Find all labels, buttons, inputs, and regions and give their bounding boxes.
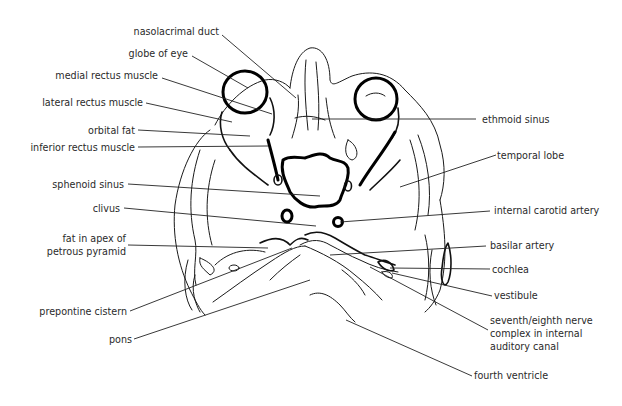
right-labels: ethmoid sinus temporal lobe internal car… — [474, 114, 600, 381]
label-nasolacrimal-duct: nasolacrimal duct — [134, 26, 220, 37]
label-fourth-ventricle: fourth ventricle — [474, 370, 548, 381]
label-clivus: clivus — [93, 203, 120, 214]
label-sphenoid-sinus: sphenoid sinus — [52, 179, 124, 190]
label-inferior-rectus-muscle: inferior rectus muscle — [30, 142, 135, 153]
label-vestibule: vestibule — [494, 290, 538, 301]
label-ethmoid-sinus: ethmoid sinus — [482, 114, 550, 125]
label-seventh-eighth-line2: complex in internal — [490, 328, 582, 339]
anatomy-drawing — [174, 48, 451, 322]
label-medial-rectus-muscle: medial rectus muscle — [55, 70, 158, 81]
label-seventh-eighth-line3: auditory canal — [490, 341, 559, 352]
label-seventh-eighth-line1: seventh/eighth nerve — [490, 315, 593, 326]
left-labels: nasolacrimal duct globe of eye medial re… — [30, 26, 219, 345]
label-globe-of-eye: globe of eye — [129, 48, 189, 59]
label-orbital-fat: orbital fat — [88, 125, 135, 136]
label-cochlea: cochlea — [492, 264, 529, 275]
label-internal-carotid-artery: internal carotid artery — [494, 205, 600, 216]
diagram-svg: nasolacrimal duct globe of eye medial re… — [0, 0, 622, 406]
label-basilar-artery: basilar artery — [490, 240, 555, 251]
label-temporal-lobe: temporal lobe — [497, 150, 564, 161]
label-pons: pons — [109, 334, 132, 345]
anatomy-diagram: nasolacrimal duct globe of eye medial re… — [0, 0, 622, 406]
label-fat-in-apex-line2: petrous pyramid — [47, 246, 126, 257]
label-prepontine-cistern: prepontine cistern — [39, 306, 127, 317]
label-lateral-rectus-muscle: lateral rectus muscle — [42, 97, 143, 108]
label-fat-in-apex-line1: fat in apex of — [62, 233, 126, 244]
